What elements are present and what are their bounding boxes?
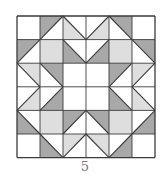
quilt-cell	[63, 110, 86, 134]
quilt-cell	[132, 134, 155, 158]
figure-caption: 5	[0, 159, 161, 174]
quilt-cell	[17, 40, 40, 64]
quilt-cell	[86, 134, 109, 158]
quilt-cell	[40, 110, 63, 134]
quilt-cell	[40, 40, 63, 64]
quilt-cell	[109, 87, 132, 111]
quilt-cell	[86, 40, 109, 64]
quilt-cell	[86, 16, 109, 40]
quilt-block-diagram	[16, 15, 156, 159]
quilt-cell	[132, 110, 155, 134]
quilt-cell	[17, 63, 40, 87]
quilt-cell	[109, 63, 132, 87]
quilt-cell	[132, 63, 155, 87]
quilt-cell	[132, 16, 155, 40]
quilt-cell	[86, 63, 109, 87]
quilt-cell	[17, 87, 40, 111]
quilt-cell	[109, 134, 132, 158]
quilt-cell	[40, 87, 63, 111]
quilt-cell	[63, 87, 86, 111]
quilt-cell	[109, 16, 132, 40]
quilt-cell	[63, 16, 86, 40]
quilt-cell	[86, 87, 109, 111]
quilt-cell	[109, 110, 132, 134]
quilt-cell	[17, 16, 40, 40]
quilt-cell	[132, 87, 155, 111]
quilt-cell	[17, 110, 40, 134]
quilt-cell	[63, 63, 86, 87]
quilt-cell	[17, 134, 40, 158]
quilt-cell	[109, 40, 132, 64]
quilt-cell	[40, 63, 63, 87]
quilt-cell	[40, 134, 63, 158]
quilt-cell	[63, 134, 86, 158]
quilt-cell	[132, 40, 155, 64]
quilt-cell	[63, 40, 86, 64]
quilt-cell	[40, 16, 63, 40]
quilt-cell	[86, 110, 109, 134]
